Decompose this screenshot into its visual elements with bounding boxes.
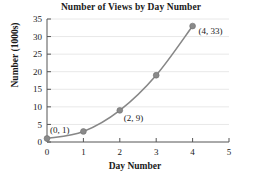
data-point-markers xyxy=(44,23,195,141)
data-point-marker xyxy=(153,72,159,78)
x-tick-label: 2 xyxy=(118,147,123,157)
y-tick-label: 15 xyxy=(33,84,43,94)
point-annotation: (0, 1) xyxy=(50,125,70,135)
data-point-marker xyxy=(190,23,196,29)
chart-figure: Number of Views by Day Number Number (10… xyxy=(0,0,262,177)
data-point-marker xyxy=(44,136,50,142)
data-line-series xyxy=(47,26,193,138)
y-axis-ticks: 05101520253035 xyxy=(33,14,51,147)
x-tick-label: 3 xyxy=(154,147,159,157)
y-tick-label: 0 xyxy=(38,137,43,147)
data-point-marker xyxy=(117,107,123,113)
y-tick-label: 20 xyxy=(33,67,43,77)
data-point-marker xyxy=(81,129,87,135)
y-tick-label: 30 xyxy=(33,32,43,42)
y-tick-label: 35 xyxy=(33,14,43,24)
x-tick-label: 5 xyxy=(227,147,232,157)
y-tick-label: 5 xyxy=(38,120,43,130)
x-tick-label: 1 xyxy=(81,147,86,157)
x-tick-label: 4 xyxy=(190,147,195,157)
x-tick-label: 0 xyxy=(45,147,50,157)
point-annotation: (2, 9) xyxy=(124,113,144,123)
plot-area: 05101520253035 012345 (0, 1)(2, 9)(4, 33… xyxy=(0,0,262,177)
y-tick-label: 10 xyxy=(33,102,43,112)
x-axis-ticks: 012345 xyxy=(45,138,232,157)
y-tick-label: 25 xyxy=(33,49,43,59)
data-point-annotations: (0, 1)(2, 9)(4, 33) xyxy=(50,26,223,135)
point-annotation: (4, 33) xyxy=(199,26,223,36)
